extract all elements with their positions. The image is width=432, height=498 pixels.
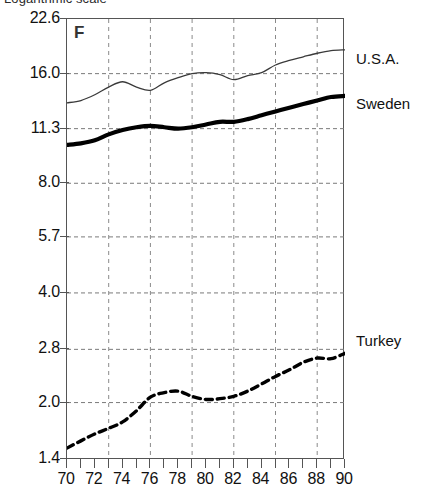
x-tick-mark [275,459,276,468]
x-tick-mark [80,459,81,468]
x-tick-mark [288,459,289,468]
x-tick-label: 84 [252,470,269,488]
y-tick-label: 2.8 [38,339,60,357]
x-tick-mark [136,459,137,468]
y-tick-label: 2.0 [38,393,60,411]
x-tick-label: 78 [169,470,186,488]
y-tick-label: 8.0 [38,173,60,191]
chart-figure: Logarithmic scale 22.616.011.38.05.74.02… [0,0,432,498]
y-tick-label: 11.3 [31,119,60,137]
y-axis: 22.616.011.38.05.74.02.82.01.4 [0,0,60,498]
series-canvas [67,19,345,459]
x-tick-mark [66,459,67,468]
x-tick-mark [163,459,164,468]
y-tick-label: 1.4 [38,449,60,467]
x-tick-label: 86 [280,470,297,488]
x-tick-mark [149,459,150,468]
y-tick-label: 16.0 [30,64,60,82]
x-tick-label: 70 [57,470,74,488]
y-tick-mark [60,236,69,237]
x-tick-label: 82 [224,470,241,488]
x-tick-mark [233,459,234,468]
plot-area [66,18,344,458]
x-tick-label: 90 [335,470,352,488]
x-tick-mark [177,459,178,468]
x-tick-mark [261,459,262,468]
x-tick-mark [191,459,192,468]
x-tick-label: 72 [85,470,102,488]
x-tick-mark [94,459,95,468]
x-tick-mark [205,459,206,468]
x-tick-mark [219,459,220,468]
y-tick-mark [60,458,69,459]
y-tick-mark [60,18,69,19]
panel-letter: F [74,24,84,41]
y-tick-label: 5.7 [38,227,60,245]
x-tick-mark [108,459,109,468]
y-tick-mark [60,348,69,349]
y-tick-mark [60,128,69,129]
y-tick-mark [60,402,69,403]
x-tick-label: 80 [196,470,213,488]
series-line [67,353,345,448]
x-tick-mark [122,459,123,468]
x-tick-label: 76 [141,470,158,488]
series-label-turkey: Turkey [356,332,401,349]
y-tick-label: 22.6 [30,9,60,27]
y-tick-label: 4.0 [38,283,60,301]
x-tick-mark [316,459,317,468]
y-tick-mark [60,73,69,74]
series-label-usa: U.S.A. [356,49,399,66]
y-tick-mark [60,182,69,183]
x-tick-mark [247,459,248,468]
x-tick-mark [344,459,345,468]
x-tick-mark [330,459,331,468]
x-tick-mark [302,459,303,468]
series-line [67,96,345,145]
x-tick-label: 74 [113,470,130,488]
y-tick-mark [60,292,69,293]
series-label-sweden: Sweden [356,95,410,112]
x-tick-label: 88 [308,470,325,488]
